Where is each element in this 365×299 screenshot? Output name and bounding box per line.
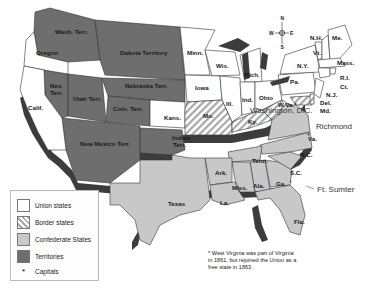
svg-text:Iowa: Iowa bbox=[195, 84, 209, 91]
svg-text:R.I.: R.I. bbox=[340, 74, 350, 81]
svg-text:Dakota Territory: Dakota Territory bbox=[120, 49, 168, 56]
svg-text:S: S bbox=[281, 44, 285, 50]
capital-star-icon: * bbox=[17, 267, 30, 276]
legend-item-capitals: * Capitals bbox=[17, 265, 58, 278]
maine bbox=[328, 25, 352, 60]
svg-text:N: N bbox=[281, 15, 285, 21]
svg-text:Ohio: Ohio bbox=[259, 94, 273, 101]
compass-rose-icon: N S E W bbox=[269, 15, 294, 50]
svg-text:Texas: Texas bbox=[168, 200, 186, 207]
svg-text:Mass.: Mass. bbox=[337, 59, 354, 66]
svg-text:Pa.: Pa. bbox=[290, 78, 300, 85]
confederate-swatch-icon bbox=[17, 233, 30, 246]
svg-text:N.Y.: N.Y. bbox=[297, 62, 309, 69]
legend-item-border: Border states bbox=[17, 216, 74, 229]
svg-text:Terr.: Terr. bbox=[50, 89, 63, 96]
svg-text:Vt.: Vt. bbox=[313, 49, 321, 56]
svg-text:S.C.: S.C. bbox=[290, 169, 302, 176]
svg-text:Oregon: Oregon bbox=[36, 49, 58, 56]
legend-item-territories: Territories bbox=[17, 250, 64, 263]
svg-text:Terr.: Terr. bbox=[173, 141, 186, 148]
svg-text:Ct.: Ct. bbox=[340, 83, 349, 90]
border-swatch-icon bbox=[17, 216, 30, 229]
svg-text:Utah Terr.: Utah Terr. bbox=[73, 95, 102, 102]
richmond-capital-icon: * bbox=[307, 132, 310, 139]
svg-text:Ky.: Ky. bbox=[248, 118, 257, 125]
rhode-island bbox=[330, 68, 336, 74]
svg-text:Indian: Indian bbox=[172, 134, 190, 141]
delaware bbox=[310, 94, 314, 104]
new-jersey bbox=[314, 78, 324, 98]
svg-text:W: W bbox=[269, 30, 274, 36]
svg-text:Minn.: Minn. bbox=[187, 49, 203, 56]
svg-text:Ala.: Ala. bbox=[253, 182, 265, 189]
svg-text:Wis.: Wis. bbox=[216, 62, 229, 69]
legend-item-confederate: Confederate States bbox=[17, 233, 91, 246]
richmond-label: Richmond bbox=[316, 122, 352, 131]
west-virginia-footnote: * West Virginia was part of Virginia in … bbox=[208, 250, 298, 272]
svg-text:Mo.: Mo. bbox=[203, 112, 214, 119]
svg-text:Miss.: Miss. bbox=[232, 184, 248, 191]
svg-text:Nev.: Nev. bbox=[50, 82, 63, 89]
territory-swatch-icon bbox=[17, 250, 30, 263]
svg-text:Md.: Md. bbox=[320, 107, 331, 114]
svg-text:La.: La. bbox=[220, 199, 229, 206]
svg-text:Ill.: Ill. bbox=[226, 100, 233, 107]
connecticut bbox=[318, 68, 330, 78]
svg-text:Calif.: Calif. bbox=[28, 104, 43, 111]
svg-text:Wash. Terr.: Wash. Terr. bbox=[55, 28, 88, 35]
svg-text:Mich.: Mich. bbox=[244, 71, 260, 78]
svg-text:Kans.: Kans. bbox=[164, 114, 181, 121]
svg-text:Ind.: Ind. bbox=[242, 96, 253, 103]
svg-text:New Mexico Terr.: New Mexico Terr. bbox=[80, 140, 130, 147]
svg-text:Fla.: Fla. bbox=[294, 218, 305, 225]
svg-text:E: E bbox=[290, 30, 294, 36]
svg-text:N.C.: N.C. bbox=[300, 151, 313, 158]
svg-text:Me.: Me. bbox=[332, 34, 343, 41]
svg-text:Colo. Terr.: Colo. Terr. bbox=[113, 105, 143, 112]
svg-text:Ark.: Ark. bbox=[215, 169, 227, 176]
union-swatch-icon bbox=[17, 199, 30, 212]
svg-text:Del.: Del. bbox=[320, 99, 332, 106]
svg-text:N.H.: N.H. bbox=[310, 34, 323, 41]
new-mexico-terr bbox=[62, 118, 140, 183]
svg-text:Tenn.: Tenn. bbox=[252, 157, 268, 164]
washington-dc-label: Washington, D.C. bbox=[250, 106, 312, 115]
svg-text:Nebraska Terr.: Nebraska Terr. bbox=[125, 82, 168, 89]
legend-item-union: Union states bbox=[17, 199, 71, 212]
ft-sumter-label: Ft. Sumter bbox=[317, 185, 355, 194]
map-legend: Union states Border states Confederate S… bbox=[10, 190, 99, 281]
svg-text:Ga.: Ga. bbox=[276, 180, 286, 187]
svg-text:N.J.: N.J. bbox=[326, 91, 338, 98]
